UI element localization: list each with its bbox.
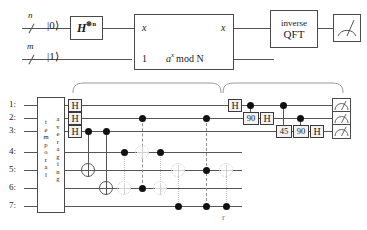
control-dot-qft-3 [297, 115, 304, 122]
qubit-label-6: 6: [9, 183, 16, 192]
qft-hadamard-q3: H [310, 125, 324, 138]
cnot-target-f-faint [171, 163, 185, 177]
hadamard-gate-q1-label: H [71, 101, 78, 111]
control-dot-b [103, 128, 110, 135]
meter-icon-q3 [332, 124, 351, 139]
bottom-circuit: 1: 2: 3: 4: 5: 6: 7: temporal averaging … [0, 0, 367, 230]
temporal-averaging-word2: averaging [53, 115, 61, 183]
qubit-label-5: 5: [9, 165, 16, 174]
cnot-target-b [99, 181, 113, 195]
temporal-averaging-word1-text: temporal [42, 118, 49, 178]
qubit-label-1: 1: [9, 100, 16, 109]
control-dot-a [85, 128, 92, 135]
qft-phase-45-q3-label: 45 [280, 127, 289, 136]
hadamard-gate-q2-label: H [71, 114, 78, 124]
qubit-label-2: 2: [9, 113, 16, 122]
cnot-target-d-faint [135, 145, 149, 159]
qft-phase-45-q3: 45 [276, 125, 292, 138]
cnot-link-g [206, 118, 207, 206]
annotation-r-label: r [222, 213, 225, 222]
cnot-target-c-faint [117, 181, 131, 195]
qft-hadamard-q3-label: H [313, 127, 320, 137]
control-dot-g-q2 [203, 115, 210, 122]
temporal-averaging-word1: temporal [41, 118, 49, 178]
hadamard-gate-q1: H [68, 99, 82, 112]
control-dot-g-q5 [203, 167, 210, 174]
cnot-link-b [106, 131, 107, 188]
control-dot-g-q7 [203, 203, 210, 210]
hadamard-gate-q3-label: H [71, 127, 78, 137]
brace-left [72, 80, 222, 94]
control-dot-qft-2 [280, 102, 287, 109]
temporal-averaging-word2-text: averaging [54, 115, 61, 183]
cnot-target-e-faint [153, 181, 167, 195]
control-dot-e [157, 149, 164, 156]
control-dot-qft-1 [247, 102, 254, 109]
cnot-target-a [81, 163, 95, 177]
quantum-circuit-diagram: n |0⟩ m |1⟩ H⊗n x 1 x axmod N inverse QF… [0, 0, 367, 230]
qubit-label-7: 7: [9, 201, 16, 210]
hadamard-gate-q3: H [68, 125, 82, 138]
qft-phase-90-q3: 90 [293, 125, 309, 138]
brace-right [222, 80, 344, 94]
control-dot-h [223, 203, 230, 210]
qubit-label-3: 3: [9, 126, 16, 135]
qft-phase-90-q3-label: 90 [297, 127, 306, 136]
qft-phase-90-q2: 90 [243, 112, 259, 125]
qft-phase-90-q2-label: 90 [247, 114, 256, 123]
qft-hadamard-q1-label: H [231, 101, 238, 111]
control-dot-c [121, 149, 128, 156]
hadamard-gate-q2: H [68, 112, 82, 125]
cnot-target-h-faint [219, 163, 233, 177]
qubit-label-4: 4: [9, 147, 16, 156]
control-dot-d-bottom [139, 185, 146, 192]
qft-hadamard-q2: H [260, 112, 274, 125]
qft-hadamard-q2-label: H [263, 114, 270, 124]
qft-hadamard-q1: H [228, 99, 242, 112]
control-dot-f [175, 203, 182, 210]
control-dot-d-top [139, 115, 146, 122]
